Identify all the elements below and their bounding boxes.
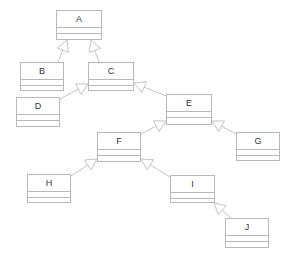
operations-compartment — [57, 34, 101, 39]
class-name: C — [89, 63, 133, 80]
edge-line — [144, 87, 166, 96]
class-c[interactable]: C — [88, 62, 134, 91]
hollow-triangle-arrowhead-icon — [214, 203, 226, 215]
edge-line — [222, 126, 236, 134]
class-a[interactable]: A — [56, 10, 102, 40]
operations-compartment — [98, 156, 140, 161]
class-j[interactable]: J — [225, 218, 269, 248]
generalization-c-to-a — [89, 40, 100, 62]
class-diagram: A B C D E F G H I J — [0, 0, 297, 264]
class-g[interactable]: G — [236, 132, 280, 161]
generalization-g-to-e — [212, 121, 236, 134]
edge-line — [71, 165, 88, 176]
class-d[interactable]: D — [16, 97, 60, 127]
generalization-b-to-a — [57, 40, 68, 62]
operations-compartment — [226, 242, 268, 247]
generalization-f-to-e — [141, 121, 166, 134]
generalization-h-to-f — [71, 159, 97, 176]
operations-compartment — [237, 156, 279, 160]
class-f[interactable]: F — [97, 132, 141, 162]
class-name: G — [237, 133, 279, 150]
operations-compartment — [167, 118, 211, 124]
edge-line — [141, 126, 156, 134]
operations-compartment — [21, 86, 63, 90]
operations-compartment — [171, 199, 214, 202]
hollow-triangle-arrowhead-icon — [89, 40, 100, 52]
edge-line — [95, 50, 99, 62]
hollow-triangle-arrowhead-icon — [134, 82, 146, 93]
class-e[interactable]: E — [166, 94, 212, 125]
generalization-i-to-f — [141, 159, 170, 177]
operations-compartment — [28, 198, 70, 202]
generalization-d-to-c — [60, 84, 88, 99]
class-name: D — [17, 98, 59, 115]
class-b[interactable]: B — [20, 62, 64, 91]
class-name: H — [28, 175, 70, 192]
edge-line — [150, 165, 170, 177]
operations-compartment — [89, 86, 133, 90]
hollow-triangle-arrowhead-icon — [85, 159, 97, 170]
class-name: A — [57, 11, 101, 28]
class-name: J — [226, 219, 268, 236]
class-name: F — [98, 133, 140, 150]
edge-line — [58, 50, 63, 62]
class-name: B — [21, 63, 63, 80]
class-name: E — [167, 95, 211, 112]
operations-compartment — [17, 121, 59, 126]
edge-line — [222, 210, 231, 218]
hollow-triangle-arrowhead-icon — [57, 40, 68, 52]
hollow-triangle-arrowhead-icon — [141, 159, 154, 170]
generalization-j-to-i — [214, 203, 231, 218]
class-i[interactable]: I — [170, 175, 215, 203]
class-name: I — [171, 176, 214, 193]
generalization-e-to-c — [134, 82, 166, 96]
class-h[interactable]: H — [27, 174, 71, 203]
